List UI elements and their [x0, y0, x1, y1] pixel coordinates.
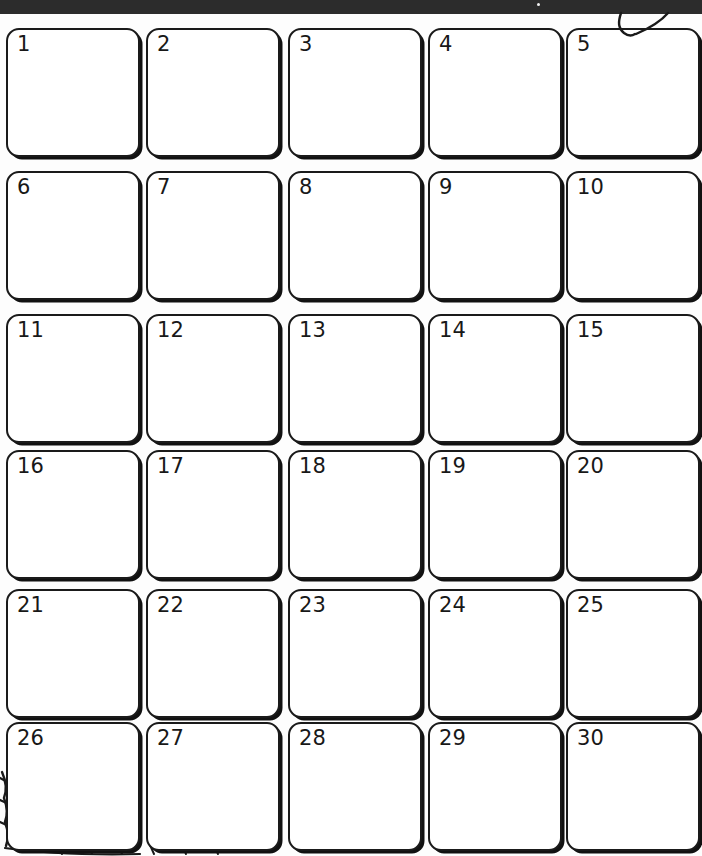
day-number: 12 [157, 320, 184, 341]
day-cell[interactable]: 3 [288, 28, 422, 157]
day-number: 23 [299, 595, 326, 616]
day-cell[interactable]: 23 [288, 589, 422, 718]
day-number: 9 [439, 177, 453, 198]
day-number: 1 [17, 34, 31, 55]
day-cell[interactable]: 1 [6, 28, 140, 157]
day-number: 20 [577, 456, 604, 477]
day-number: 13 [299, 320, 326, 341]
day-number: 6 [17, 177, 31, 198]
day-cell[interactable]: 12 [146, 314, 280, 443]
day-cell[interactable]: 20 [566, 450, 700, 579]
day-number: 14 [439, 320, 466, 341]
day-number: 26 [17, 728, 44, 749]
day-number: 25 [577, 595, 604, 616]
day-cell[interactable]: 2 [146, 28, 280, 157]
day-cell[interactable]: 24 [428, 589, 562, 718]
day-number: 24 [439, 595, 466, 616]
day-number: 16 [17, 456, 44, 477]
day-number: 28 [299, 728, 326, 749]
day-number: 19 [439, 456, 466, 477]
day-cell[interactable]: 10 [566, 171, 700, 300]
day-cell[interactable]: 21 [6, 589, 140, 718]
day-number: 27 [157, 728, 184, 749]
day-number: 18 [299, 456, 326, 477]
day-cell[interactable]: 8 [288, 171, 422, 300]
day-number: 22 [157, 595, 184, 616]
day-number: 29 [439, 728, 466, 749]
day-number: 21 [17, 595, 44, 616]
day-cell[interactable]: 15 [566, 314, 700, 443]
day-cell[interactable]: 17 [146, 450, 280, 579]
day-number: 30 [577, 728, 604, 749]
day-cell[interactable]: 29 [428, 722, 562, 851]
day-number: 7 [157, 177, 171, 198]
day-number: 8 [299, 177, 313, 198]
day-number: 15 [577, 320, 604, 341]
day-cell[interactable]: 19 [428, 450, 562, 579]
day-number: 4 [439, 34, 453, 55]
day-cell[interactable]: 28 [288, 722, 422, 851]
day-number: 10 [577, 177, 604, 198]
day-cell[interactable]: 22 [146, 589, 280, 718]
day-cell[interactable]: 11 [6, 314, 140, 443]
calendar-grid: 1234567891011121314151617181920212223242… [0, 0, 702, 856]
day-number: 2 [157, 34, 171, 55]
day-number: 3 [299, 34, 313, 55]
day-number: 5 [577, 34, 591, 55]
calendar-page: 1234567891011121314151617181920212223242… [0, 0, 702, 856]
day-cell[interactable]: 30 [566, 722, 700, 851]
day-cell[interactable]: 6 [6, 171, 140, 300]
day-number: 17 [157, 456, 184, 477]
day-cell[interactable]: 16 [6, 450, 140, 579]
day-cell[interactable]: 7 [146, 171, 280, 300]
day-cell[interactable]: 13 [288, 314, 422, 443]
day-cell[interactable]: 4 [428, 28, 562, 157]
day-number: 11 [17, 320, 44, 341]
day-cell[interactable]: 18 [288, 450, 422, 579]
day-cell[interactable]: 5 [566, 28, 700, 157]
day-cell[interactable]: 26 [6, 722, 140, 851]
day-cell[interactable]: 27 [146, 722, 280, 851]
day-cell[interactable]: 9 [428, 171, 562, 300]
day-cell[interactable]: 25 [566, 589, 700, 718]
day-cell[interactable]: 14 [428, 314, 562, 443]
